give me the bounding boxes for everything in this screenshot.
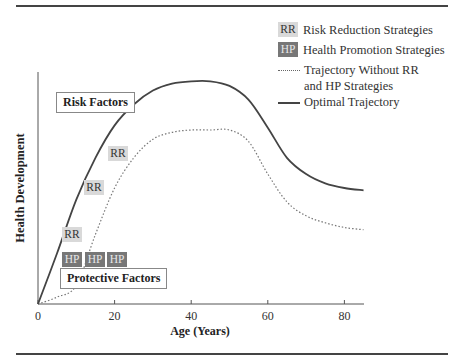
legend-label: Trajectory Without RR and HP Strategies [304, 62, 419, 94]
hp-tag: HP [62, 252, 82, 267]
dotted-line-icon [278, 70, 300, 71]
hp-tag: HP [85, 252, 105, 267]
legend-label-line2: and HP Strategies [304, 79, 393, 93]
rr-chip-icon: RR [278, 22, 298, 37]
legend-label: Optimal Trajectory [304, 94, 399, 110]
hp-chip-icon: HP [278, 42, 298, 57]
x-tick-label: 60 [262, 309, 274, 324]
legend-label-line1: Trajectory Without RR [304, 63, 419, 77]
y-axis-title: Health Development [13, 133, 28, 242]
risk-factors-label: Risk Factors [56, 92, 135, 113]
x-tick-label: 80 [338, 309, 350, 324]
rr-tag: RR [62, 227, 82, 242]
x-tick-label: 0 [35, 309, 41, 324]
x-axis-title: Age (Years) [170, 324, 230, 339]
legend-label: Health Promotion Strategies [303, 42, 445, 58]
protective-factors-label: Protective Factors [60, 268, 167, 289]
legend-item-rr: RR Risk Reduction Strategies [278, 22, 445, 42]
x-tick-label: 40 [185, 309, 197, 324]
legend: RR Risk Reduction Strategies HP Health P… [278, 22, 445, 114]
legend-item-optimal: Optimal Trajectory [278, 94, 445, 114]
rr-tag: RR [84, 180, 104, 195]
x-tick-label: 20 [109, 309, 121, 324]
rr-tag: RR [108, 146, 128, 161]
hp-tag: HP [107, 252, 127, 267]
legend-label: Risk Reduction Strategies [303, 22, 433, 38]
solid-line-icon [278, 102, 300, 104]
legend-item-hp: HP Health Promotion Strategies [278, 42, 445, 62]
x-ticks [38, 300, 344, 304]
legend-item-without: Trajectory Without RR and HP Strategies [278, 62, 445, 94]
